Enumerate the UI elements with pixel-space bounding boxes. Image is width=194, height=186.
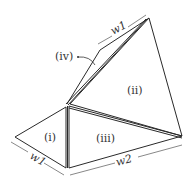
label-iii: (iii)	[96, 132, 115, 145]
label-iv: (iv)	[55, 50, 73, 63]
label-w2: w2	[114, 152, 133, 169]
dim-line-w1-top-a	[98, 36, 112, 44]
triangle-ii	[70, 18, 182, 136]
label-w1-top: w1	[108, 18, 129, 37]
arrow-iv	[78, 57, 95, 65]
dim-line-w1-top-b	[128, 15, 146, 27]
arrow-iv-tail	[77, 56, 79, 58]
fold-line-ii-iii	[69, 108, 182, 138]
label-w1-left: w1	[28, 149, 49, 168]
dim-line-w2-a	[70, 163, 115, 175]
label-i: (i)	[44, 131, 56, 144]
label-ii: (ii)	[127, 84, 143, 97]
folding-diagram: (iv) (ii) (i) (iii) w1 w1 w2	[0, 0, 194, 186]
